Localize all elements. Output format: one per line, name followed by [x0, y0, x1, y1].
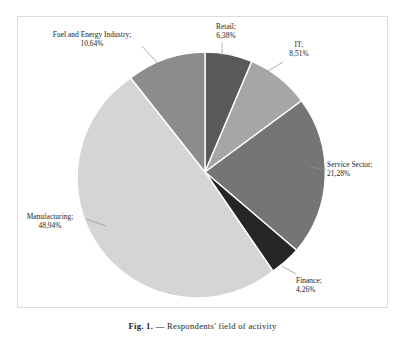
pie-label-it-name: IT;	[275, 40, 323, 49]
figure-container: Retail; 6,38% IT; 8,51% Service Sector; …	[0, 0, 405, 337]
pie-label-service-sector-value: 21,28%	[327, 169, 399, 178]
pie-label-fuel-and-energy-industry-name: Fuel and Energy Industry;	[34, 30, 150, 39]
pie-label-retail: Retail; 6,38%	[196, 22, 256, 40]
pie-label-manufacturing: Manufacturing; 48,94%	[14, 212, 86, 230]
pie-label-finance-name: Finance;	[296, 276, 360, 285]
pie-label-it: IT; 8,51%	[275, 40, 323, 58]
pie-label-service-sector: Service Sector; 21,28%	[327, 160, 399, 178]
pie-label-manufacturing-name: Manufacturing;	[14, 212, 86, 221]
leader-line-it	[266, 62, 283, 72]
leader-line-finance	[282, 266, 296, 274]
pie-label-service-sector-name: Service Sector;	[327, 160, 399, 169]
pie-label-finance-value: 4,26%	[296, 285, 360, 294]
pie-label-it-value: 8,51%	[275, 49, 323, 58]
pie-slice-group	[77, 52, 325, 298]
pie-label-manufacturing-value: 48,94%	[14, 221, 86, 230]
figure-caption-number: Fig. 1.	[128, 321, 153, 331]
pie-label-finance: Finance; 4,26%	[296, 276, 360, 294]
figure-caption-text: Respondents' field of activity	[167, 321, 277, 331]
pie-label-fuel-and-energy-industry: Fuel and Energy Industry; 10,64%	[34, 30, 150, 48]
figure-caption-dash: —	[156, 321, 165, 331]
figure-caption: Fig. 1. — Respondents' field of activity	[0, 321, 405, 331]
pie-label-fuel-and-energy-industry-value: 10,64%	[34, 39, 150, 48]
pie-label-retail-value: 6,38%	[196, 31, 256, 40]
pie-label-retail-name: Retail;	[196, 22, 256, 31]
